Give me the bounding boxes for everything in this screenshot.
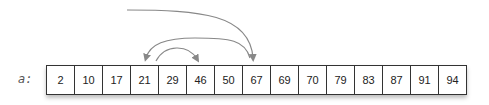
back-arrow-icon — [146, 38, 250, 58]
short-arrow-icon — [156, 48, 197, 61]
search-arrows — [0, 0, 489, 105]
